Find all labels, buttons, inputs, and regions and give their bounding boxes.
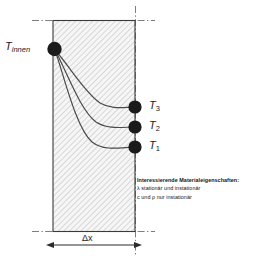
label-t1-base: T — [149, 139, 156, 151]
label-t2-base: T — [149, 119, 156, 131]
caption-line-c-rho: c und ρ nur instationär — [137, 193, 253, 201]
label-t-innen: Tinnen — [5, 41, 30, 52]
node-t3 — [128, 100, 141, 113]
node-t2 — [128, 120, 141, 133]
label-t1-subscript: 1 — [156, 144, 160, 153]
label-t-innen-base: T — [5, 40, 12, 52]
label-t1: T1 — [149, 140, 160, 151]
material-properties-caption: Interessierende Materialeigenschaften: λ… — [137, 176, 253, 201]
node-t-innen — [47, 42, 61, 56]
node-t1 — [128, 140, 141, 153]
caption-line-lambda: λ stationär und instationär — [137, 184, 253, 192]
label-t3: T3 — [149, 100, 160, 111]
wall-slab — [53, 21, 135, 232]
label-thickness-delta-x: Δx — [82, 234, 93, 243]
label-t3-subscript: 3 — [156, 104, 160, 113]
label-t2: T2 — [149, 120, 160, 131]
thermal-wall-diagram: Tinnen T3 T2 T1 Δx Interessierende Mater… — [0, 0, 255, 259]
label-t-innen-subscript: innen — [12, 45, 30, 54]
caption-heading: Interessierende Materialeigenschaften: — [137, 176, 253, 184]
diagram-canvas — [0, 0, 255, 259]
label-t2-subscript: 2 — [156, 124, 160, 133]
label-t3-base: T — [149, 99, 156, 111]
